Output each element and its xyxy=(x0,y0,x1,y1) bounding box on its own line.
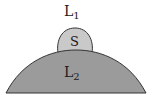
label-s: S xyxy=(70,34,79,49)
label-l1: L1 xyxy=(64,3,80,21)
diagram-canvas: L1 S L2 xyxy=(0,0,149,97)
